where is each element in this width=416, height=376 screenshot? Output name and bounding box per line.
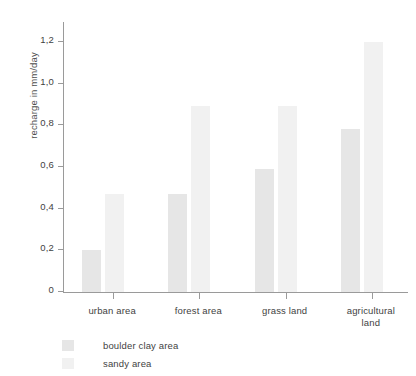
y-axis-title: recharge in mm/day [28, 21, 39, 171]
bar [278, 106, 297, 292]
y-tick-label: 0,8 [40, 117, 54, 128]
bar [364, 42, 383, 292]
bar-group [168, 22, 210, 292]
y-tick-label: 1,0 [40, 76, 54, 87]
chart-legend: boulder clay areasandy area [62, 336, 178, 372]
bar [255, 169, 274, 292]
legend-item: boulder clay area [62, 336, 178, 354]
x-axis-label: grass land [235, 305, 335, 317]
plot-area: 00,20,40,60,81,01,2 [63, 22, 408, 293]
y-tick-label: 0,4 [40, 201, 54, 212]
bar [191, 106, 210, 292]
bars-layer [64, 22, 408, 292]
y-tick-label: 0,2 [40, 242, 54, 253]
bar-chart: recharge in mm/day 00,20,40,60,81,01,2 u… [0, 0, 416, 376]
x-axis-label: forest area [148, 305, 248, 317]
bar-group [341, 22, 383, 292]
legend-swatch [62, 358, 74, 369]
x-axis-label: urban area [62, 305, 162, 317]
y-tick-label: 1,2 [40, 34, 54, 45]
y-tick: 0 [36, 291, 64, 292]
legend-label: sandy area [103, 358, 152, 369]
bar [341, 129, 360, 292]
x-tick-mark [286, 292, 287, 299]
x-tick-mark [199, 292, 200, 299]
bar-group [255, 22, 297, 292]
y-tick: 0,6 [36, 166, 64, 167]
y-tick: 1,0 [36, 83, 64, 84]
y-tick-label: 0 [49, 284, 54, 295]
y-tick: 0,2 [36, 249, 64, 250]
bar-group [82, 22, 124, 292]
bar [168, 194, 187, 292]
legend-swatch [62, 340, 74, 351]
y-tick: 1,2 [36, 41, 64, 42]
x-tick-mark [372, 292, 373, 299]
legend-item: sandy area [62, 354, 178, 372]
x-tick-mark [113, 292, 114, 299]
y-tick: 0,8 [36, 124, 64, 125]
x-axis-label-line2: land [321, 317, 416, 329]
y-tick-label: 0,6 [40, 159, 54, 170]
legend-label: boulder clay area [103, 340, 178, 351]
bar [82, 250, 101, 292]
y-tick: 0,4 [36, 208, 64, 209]
bar [105, 194, 124, 292]
x-axis-label: agriculturalland [321, 305, 416, 329]
